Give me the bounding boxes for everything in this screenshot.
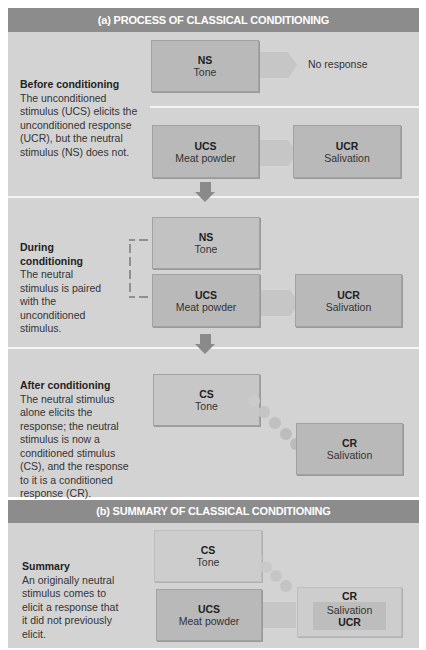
cr-abbr: CR — [342, 437, 357, 449]
cs-label: Tone — [195, 400, 218, 412]
ns-abbr: NS — [199, 231, 214, 243]
ucs-abbr: UCS — [194, 140, 216, 152]
ucs-box-summary: UCS Meat powder — [156, 589, 262, 641]
ns-abbr: NS — [198, 54, 213, 66]
ucs-label: Meat powder — [179, 615, 240, 627]
cs-abbr: CS — [201, 544, 216, 556]
ucs-box-before: UCS Meat powder — [152, 125, 259, 178]
ns-label: Tone — [195, 243, 218, 255]
cs-label: Tone — [197, 556, 220, 568]
no-response-label: No response — [308, 58, 368, 70]
section-b-title: (b) SUMMARY OF CLASSICAL CONDITIONING — [96, 505, 330, 517]
down-arrow-icon — [195, 182, 216, 204]
before-conditioning-description: Before conditioning The unconditioned st… — [20, 78, 138, 159]
after-conditioning-description: After conditioning The neutral stimulus … — [20, 379, 130, 501]
section-a-header: (a) PROCESS OF CLASSICAL CONDITIONING — [8, 8, 419, 32]
ns-box-during: NS Tone — [152, 217, 260, 269]
ns-label: Tone — [194, 66, 217, 78]
ucs-abbr: UCS — [198, 603, 220, 615]
cs-box-summary: CS Tone — [154, 530, 262, 582]
ns-box-before: NS Tone — [151, 40, 259, 92]
before-conditioning-text: The unconditioned stimulus (UCS) elicits… — [20, 92, 137, 158]
ucs-abbr: UCS — [195, 289, 217, 301]
cr-label: Salivation — [327, 449, 373, 461]
cr-box-summary: CR Salivation UCR — [297, 587, 402, 637]
ucs-label: Meat powder — [176, 301, 237, 313]
during-conditioning-title: During conditioning — [20, 241, 110, 268]
cr-abbr: CR — [342, 590, 357, 602]
cs-box-after: CS Tone — [153, 374, 260, 426]
after-conditioning-text: The neutral stimulus alone elicits the r… — [20, 393, 129, 500]
ucr-box-during: UCR Salivation — [295, 274, 402, 327]
ucr-label: Salivation — [324, 152, 370, 164]
cs-abbr: CS — [199, 388, 214, 400]
before-conditioning-title: Before conditioning — [20, 78, 138, 92]
summary-text: An originally neutral stimulus comes to … — [22, 574, 118, 640]
ucs-label: Meat powder — [175, 152, 236, 164]
section-a-title: (a) PROCESS OF CLASSICAL CONDITIONING — [98, 14, 329, 26]
ucr-box-before: UCR Salivation — [293, 125, 401, 178]
during-conditioning-description: During conditioning The neutral stimulus… — [20, 241, 110, 336]
ucr-label: Salivation — [326, 301, 372, 313]
ucr-abbr: UCR — [338, 616, 361, 628]
ns-arrow-tip — [288, 52, 297, 78]
salivation-label: Salivation — [327, 604, 373, 616]
ucr-inner-box: Salivation UCR — [313, 602, 385, 630]
ucr-abbr: UCR — [337, 289, 360, 301]
after-conditioning-title: After conditioning — [20, 379, 130, 393]
summary-title: Summary — [22, 560, 122, 574]
cr-box-after: CR Salivation — [296, 423, 403, 475]
during-conditioning-text: The neutral stimulus is paired with the … — [20, 268, 101, 334]
summary-description: Summary An originally neutral stimulus c… — [22, 560, 122, 641]
divider — [150, 106, 419, 108]
section-b-header: (b) SUMMARY OF CLASSICAL CONDITIONING — [8, 500, 419, 523]
ucs-box-during: UCS Meat powder — [152, 274, 260, 327]
ucr-abbr: UCR — [336, 140, 359, 152]
down-arrow-icon — [195, 334, 216, 356]
